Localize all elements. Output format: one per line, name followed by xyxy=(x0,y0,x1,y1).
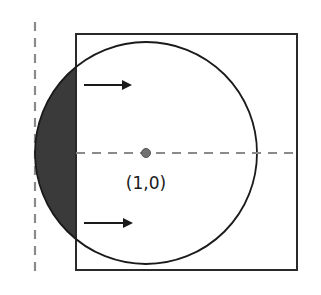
center-label: (1,0) xyxy=(126,173,166,193)
geometry-diagram: (1,0) xyxy=(0,0,321,295)
center-point xyxy=(142,149,151,158)
